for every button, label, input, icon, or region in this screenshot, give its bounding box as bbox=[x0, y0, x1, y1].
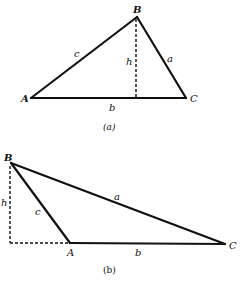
side-label-c-a: c bbox=[74, 48, 80, 59]
side-c-a bbox=[31, 17, 137, 98]
side-a-a bbox=[137, 17, 186, 98]
diagram-a: B A C c a b h (a) bbox=[20, 4, 198, 132]
altitude-label-h-a: h bbox=[126, 56, 132, 67]
side-label-b-a: b bbox=[109, 102, 115, 113]
vertex-label-C-b: C bbox=[229, 240, 237, 251]
diagram-b: B A C c a b h (b) bbox=[1, 152, 237, 275]
altitude-label-h-b: h bbox=[1, 197, 7, 208]
side-label-a-b: a bbox=[114, 191, 120, 202]
vertex-label-B-b: B bbox=[3, 152, 12, 163]
triangle-diagrams: B A C c a b h (a) B A C c a b h (b) bbox=[0, 0, 243, 288]
side-a-b bbox=[11, 163, 225, 244]
side-label-b-b: b bbox=[135, 247, 141, 258]
vertex-label-C-a: C bbox=[190, 93, 198, 104]
caption-b: (b) bbox=[103, 265, 116, 275]
vertex-label-B-a: B bbox=[132, 4, 141, 15]
side-label-a-a: a bbox=[167, 53, 173, 64]
vertex-label-A-b: A bbox=[66, 247, 74, 258]
vertex-label-A-a: A bbox=[20, 93, 29, 104]
side-label-c-b: c bbox=[35, 206, 41, 217]
side-b-b bbox=[70, 243, 225, 244]
caption-a: (a) bbox=[103, 122, 116, 132]
